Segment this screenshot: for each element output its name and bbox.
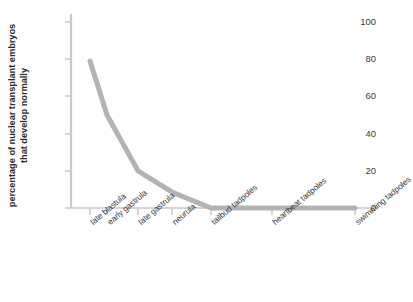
y-tick-label-20: 20	[352, 166, 376, 176]
y-axis-label: percentage of nuclear transplant embryos…	[7, 16, 30, 216]
y-tick-label-100: 100	[352, 17, 376, 27]
y-tick-label-80: 80	[352, 54, 376, 64]
y-tick-label-60: 60	[352, 91, 376, 101]
y-tick-label-40: 40	[352, 129, 376, 139]
